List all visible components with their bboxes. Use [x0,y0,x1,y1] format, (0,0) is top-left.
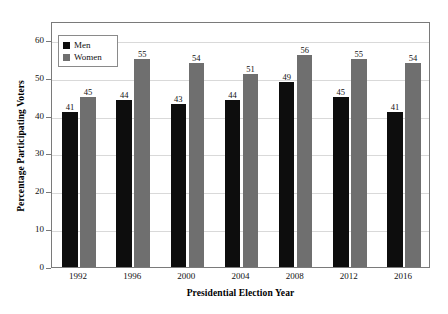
bar-value-label: 45 [74,87,102,97]
bar-value-label: 55 [128,49,156,59]
bar-men-2012 [333,97,349,267]
x-tick-label-2004: 2004 [211,271,271,281]
legend-swatch-men-icon [63,42,70,49]
bar-value-label: 51 [237,64,265,74]
y-tick-label: 20 [0,186,44,198]
bar-women-2016 [405,63,421,267]
bar-women-2012 [351,59,367,267]
y-tick-label: 0 [0,262,44,274]
y-tick-label: 10 [0,224,44,236]
legend-item-men: Men [63,39,113,51]
legend-swatch-women-icon [63,54,70,61]
bar-women-2000 [189,63,205,267]
y-tick-mark [46,117,51,118]
y-tick-mark [46,192,51,193]
bar-men-2008 [279,82,295,267]
x-tick-label-2000: 2000 [156,271,216,281]
bar-women-1996 [134,59,150,267]
bar-value-label: 56 [291,45,319,55]
legend: Men Women [58,35,118,67]
y-tick-label: 30 [0,148,44,160]
bar-men-1996 [116,100,132,267]
gridline [52,118,429,119]
y-tick-label: 40 [0,111,44,123]
bar-women-2008 [297,55,313,267]
x-axis-title: Presidential Election Year [51,288,430,298]
bar-value-label: 54 [183,53,211,63]
x-tick-label-2012: 2012 [319,271,379,281]
gridline [52,155,429,156]
bar-women-1992 [80,97,96,267]
x-tick-label-2008: 2008 [265,271,325,281]
y-tick-mark [46,41,51,42]
gridline [52,231,429,232]
y-tick-mark [46,79,51,80]
bar-women-2004 [243,74,259,267]
bar-men-2016 [387,112,403,267]
figure-bar-chart: Percentage Participating Voters 41454455… [0,0,448,314]
x-tick-label-1996: 1996 [102,271,162,281]
bar-men-2004 [225,100,241,267]
y-tick-label: 60 [0,35,44,47]
legend-label-men: Men [74,39,91,51]
bar-value-label: 54 [399,53,427,63]
y-tick-mark [46,154,51,155]
legend-item-women: Women [63,51,113,63]
y-tick-mark [46,268,51,269]
legend-label-women: Women [74,51,102,63]
y-tick-label: 50 [0,73,44,85]
bar-value-label: 55 [345,49,373,59]
bar-men-1992 [62,112,78,267]
bar-men-2000 [171,104,187,267]
y-tick-mark [46,230,51,231]
x-tick-label-1992: 1992 [48,271,108,281]
gridline [52,193,429,194]
x-tick-label-2016: 2016 [373,271,433,281]
gridline [52,80,429,81]
